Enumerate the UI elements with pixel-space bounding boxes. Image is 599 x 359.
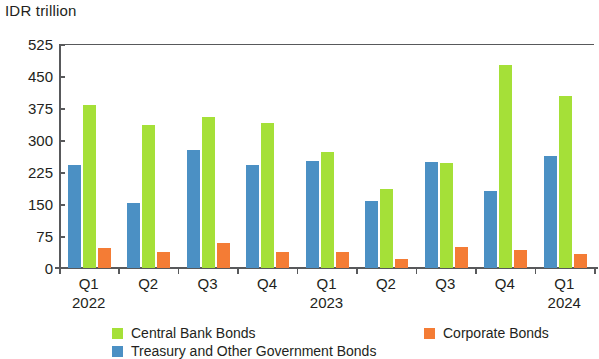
x-axis-quarter-label: Q4 [475,275,534,292]
bar-corp [336,252,349,268]
x-axis-quarter-label: Q2 [118,275,177,292]
y-axis-tick-label: 450 [3,68,53,85]
x-axis-year-label: 2022 [59,294,118,311]
bar-group [484,44,528,268]
x-axis-quarter-label: Q2 [356,275,415,292]
bar-treasury [246,165,259,268]
bar-central [142,125,155,268]
y-axis-tick-mark [59,140,65,142]
bar-treasury [484,191,497,268]
bar-corp [157,252,170,268]
y-axis-tick-labels: 075150225300375450525 [0,0,53,358]
legend-item-treasury-bonds: Treasury and Other Government Bonds [112,343,376,359]
y-axis-tick-label: 225 [3,164,53,181]
x-axis-tick-mark [475,269,477,274]
x-axis-group-label: Q2 [118,275,177,292]
x-axis-quarter-label: Q3 [178,275,237,292]
bar-central [83,105,96,268]
x-axis-tick-mark [59,269,61,274]
bar-group [425,44,469,268]
y-axis-tick-mark [59,204,65,206]
x-axis-tick-mark [594,269,596,274]
bars-layer [59,44,594,268]
x-axis-tick-mark [356,269,358,274]
x-axis-group-label: Q12022 [59,275,118,311]
x-axis-year-label: 2024 [535,294,594,311]
x-axis-tick-mark [178,269,180,274]
y-axis-tick-label: 0 [3,260,53,277]
bar-central [202,117,215,268]
y-axis-tick-label: 75 [3,228,53,245]
x-axis-group-label: Q4 [475,275,534,292]
x-axis-tick-mark [118,269,120,274]
bar-central [559,96,572,268]
bar-group [246,44,290,268]
bar-corp [217,243,230,268]
legend-swatch-green-icon [112,328,123,339]
chart-legend: Central Bank Bonds Corporate Bonds Treas… [112,325,599,358]
bar-treasury [544,156,557,268]
legend-swatch-blue-icon [112,346,123,357]
y-axis-tick-label: 525 [3,36,53,53]
bar-central [261,123,274,268]
legend-label-corporate-bonds: Corporate Bonds [443,325,549,341]
x-axis-group-label: Q12023 [297,275,356,311]
y-axis-tick-mark [59,236,65,238]
y-axis-tick-mark [59,108,65,110]
bar-group [187,44,231,268]
bar-group [127,44,171,268]
legend-item-central-bank-bonds: Central Bank Bonds [112,325,256,341]
bar-corp [574,254,587,269]
bar-central [321,152,334,268]
x-axis-year-label: 2023 [297,294,356,311]
x-axis-group-label: Q3 [178,275,237,292]
bar-corp [514,250,527,268]
x-axis-group-label: Q3 [416,275,475,292]
x-axis-group-label: Q4 [237,275,296,292]
x-axis-quarter-label: Q1 [535,275,594,292]
x-axis-quarter-label: Q1 [59,275,118,292]
x-axis-tick-labels: Q12022Q2Q3Q4Q12023Q2Q3Q4Q12024 [59,269,594,317]
y-axis-tick-mark [59,44,65,46]
y-axis-tick-label: 150 [3,196,53,213]
bar-treasury [425,162,438,268]
x-axis-tick-mark [237,269,239,274]
bar-central [440,163,453,268]
bar-group [68,44,112,268]
x-axis-group-label: Q2 [356,275,415,292]
bar-treasury [306,161,319,268]
y-axis-tick-mark [59,76,65,78]
x-axis-tick-mark [535,269,537,274]
bar-group [306,44,350,268]
bar-corp [455,247,468,268]
y-axis-tick-label: 375 [3,100,53,117]
bar-group [365,44,409,268]
y-axis-tick-label: 300 [3,132,53,149]
legend-swatch-orange-icon [424,328,435,339]
legend-label-treasury-bonds: Treasury and Other Government Bonds [131,343,376,359]
legend-item-corporate-bonds: Corporate Bonds [424,325,549,341]
bar-corp [276,252,289,268]
x-axis-quarter-label: Q3 [416,275,475,292]
bar-corp [98,248,111,268]
x-axis-quarter-label: Q1 [297,275,356,292]
bar-central [380,189,393,268]
bar-treasury [68,165,81,268]
bar-group [544,44,588,268]
y-axis-tick-mark [59,172,65,174]
x-axis-group-label: Q12024 [535,275,594,311]
bar-corp [395,259,408,268]
x-axis-quarter-label: Q4 [237,275,296,292]
legend-label-central-bank-bonds: Central Bank Bonds [131,325,256,341]
x-axis-tick-mark [416,269,418,274]
bar-treasury [127,203,140,268]
x-axis-tick-mark [297,269,299,274]
bar-treasury [365,201,378,268]
bar-central [499,65,512,268]
bar-treasury [187,150,200,268]
